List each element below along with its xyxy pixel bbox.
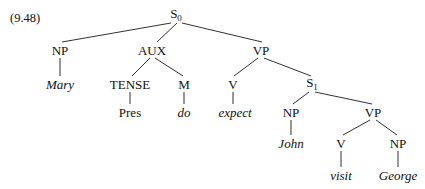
tree-node-vp_main: VP	[253, 44, 270, 57]
tree-node-v_emb: V	[336, 137, 345, 150]
tree-branch-s0-to-vp_main	[182, 23, 262, 42]
tree-branch-s1-to-np_emb	[293, 92, 309, 104]
tree-node-label: visit	[330, 168, 352, 183]
tree-node-label: VP	[365, 105, 382, 120]
tree-node-label: George	[379, 168, 418, 183]
tree-node-s1: S1	[306, 76, 318, 93]
tree-node-label: Pres	[119, 105, 141, 120]
tree-node-pres: Pres	[119, 106, 141, 119]
tree-node-mary: Mary	[46, 78, 74, 91]
tree-node-v_main: V	[228, 78, 237, 91]
tree-node-label: V	[336, 136, 345, 151]
tree-node-label: TENSE	[110, 77, 150, 92]
tree-node-label: NP	[52, 43, 69, 58]
tree-node-label: M	[178, 77, 190, 92]
tree-branch-s1-to-vp_emb	[315, 92, 372, 104]
tree-branches	[0, 0, 425, 189]
syntax-tree-figure: (9.48) S0NPAUXVPMaryTENSEMVS1Presdoexpec…	[0, 0, 425, 189]
tree-node-s0: S0	[170, 7, 182, 24]
tree-node-np_subj: NP	[52, 44, 69, 57]
tree-node-label: Mary	[46, 77, 74, 92]
tree-node-do: do	[178, 106, 191, 119]
tree-node-label: do	[178, 105, 191, 120]
tree-node-george: George	[379, 169, 418, 182]
tree-branch-vp_main-to-v_main	[234, 58, 258, 76]
tree-node-aux: AUX	[138, 44, 166, 57]
tree-node-m: M	[178, 78, 190, 91]
tree-node-subscript: 1	[313, 82, 318, 92]
tree-branch-vp_emb-to-v_emb	[343, 120, 370, 135]
tree-node-visit: visit	[330, 169, 352, 182]
tree-node-label: John	[278, 136, 303, 151]
tree-node-np_obj: NP	[390, 137, 407, 150]
tree-node-label: VP	[253, 43, 270, 58]
tree-node-subscript: 0	[177, 13, 182, 23]
tree-node-label: NP	[283, 105, 300, 120]
tree-node-tense: TENSE	[110, 78, 150, 91]
tree-node-label: AUX	[138, 43, 166, 58]
tree-branch-aux-to-m	[155, 58, 183, 76]
tree-node-np_emb: NP	[283, 106, 300, 119]
tree-node-label: V	[228, 77, 237, 92]
tree-branch-vp_main-to-s1	[264, 58, 311, 76]
tree-node-expect: expect	[218, 106, 251, 119]
tree-node-vp_emb: VP	[365, 106, 382, 119]
tree-branch-s0-to-aux	[157, 23, 177, 42]
tree-branch-vp_emb-to-np_obj	[376, 120, 397, 135]
tree-node-label: expect	[218, 105, 251, 120]
tree-branch-s0-to-np_subj	[62, 23, 171, 42]
tree-node-john: John	[278, 137, 303, 150]
tree-branch-aux-to-tense	[132, 58, 150, 76]
tree-node-label: NP	[390, 136, 407, 151]
